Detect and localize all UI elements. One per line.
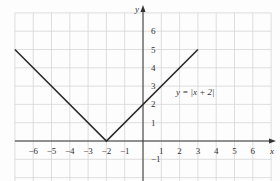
y-tick-label: 5 bbox=[151, 45, 156, 55]
x-tick-label: 5 bbox=[232, 146, 237, 156]
x-tick-label: −2 bbox=[102, 146, 112, 156]
y-tick-label: 2 bbox=[151, 99, 156, 109]
y-tick-label: 4 bbox=[151, 63, 156, 73]
x-tick-label: −4 bbox=[65, 146, 75, 156]
x-tick-label: −6 bbox=[28, 146, 38, 156]
x-tick-label: −3 bbox=[83, 146, 93, 156]
x-tick-label: −5 bbox=[47, 146, 57, 156]
x-axis-arrow-icon bbox=[269, 139, 276, 144]
graph-absolute-value: −6−5−4−3−2−1123456−1123456xyy = |x + 2| bbox=[0, 0, 280, 181]
y-tick-label: 6 bbox=[151, 26, 156, 36]
x-tick-label: −1 bbox=[120, 146, 130, 156]
y-tick-label: 3 bbox=[151, 81, 156, 91]
y-axis-label: y bbox=[134, 4, 139, 14]
x-tick-label: 4 bbox=[214, 146, 219, 156]
x-tick-label: 3 bbox=[196, 146, 201, 156]
x-axis-label: x bbox=[269, 146, 274, 156]
y-tick-label: −1 bbox=[151, 154, 161, 164]
x-tick-label: 2 bbox=[177, 146, 182, 156]
y-tick-label: 1 bbox=[151, 118, 156, 128]
y-axis-arrow-icon bbox=[141, 5, 146, 12]
equation-label: y = |x + 2| bbox=[175, 87, 215, 97]
x-tick-label: 6 bbox=[251, 146, 256, 156]
